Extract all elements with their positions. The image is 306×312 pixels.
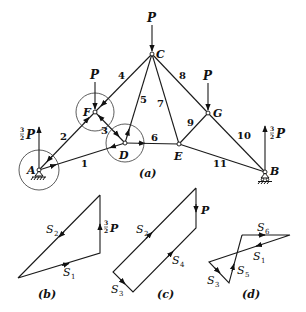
svg-text:3: 3 <box>270 125 274 132</box>
svg-text:2: 2 <box>104 227 108 234</box>
caption-c: (c) <box>157 288 174 301</box>
caption-a: (a) <box>139 167 157 180</box>
label-S1-b: S 1 <box>63 266 75 281</box>
svg-text:S: S <box>237 264 245 277</box>
label-S2-c: S 2 <box>136 223 148 238</box>
truss-figure: P P P 3 2 P 3 2 P A B C D E F G 1 2 3 4 … <box>0 0 306 312</box>
arrow-icon <box>101 101 106 106</box>
joint-label-B: B <box>269 165 279 178</box>
label-S3-d: S 3 <box>207 274 219 289</box>
svg-text:S: S <box>111 283 119 296</box>
joint-label-D: D <box>118 149 129 162</box>
force-polygon-b: S 2 S 1 3 2 P (b) <box>18 195 119 301</box>
arrow-icon <box>215 268 220 273</box>
member-label-3: 3 <box>101 125 108 136</box>
force-polygon-d: S 6 S 1 S 5 S 3 (d) <box>207 221 290 301</box>
load-label-G: P <box>202 69 213 83</box>
member-label-11: 11 <box>213 158 227 169</box>
svg-text:P: P <box>109 222 119 235</box>
force-polygon-c: P S 2 S 4 S 3 (c) <box>111 188 210 301</box>
svg-text:S: S <box>253 250 261 263</box>
label-S4-c: S 4 <box>172 254 185 269</box>
label-S5-d: S 5 <box>237 264 249 279</box>
joint-label-G: G <box>213 107 222 120</box>
member-label-1: 1 <box>81 158 88 169</box>
svg-text:S: S <box>46 223 54 236</box>
reaction-label-A: 3 2 P <box>20 126 36 142</box>
joint-label-E: E <box>173 150 183 163</box>
label-S3-c: S 3 <box>111 283 123 298</box>
member-label-6: 6 <box>151 132 158 143</box>
svg-text:3: 3 <box>215 281 219 289</box>
member-label-2: 2 <box>60 131 67 142</box>
svg-text:3: 3 <box>119 290 123 298</box>
label-S6-d: S 6 <box>257 221 270 236</box>
reaction-label-B: 3 2 P <box>270 125 286 141</box>
caption-d: (d) <box>242 288 260 301</box>
joint-label-F: F <box>82 106 92 119</box>
member-label-4: 4 <box>118 70 125 81</box>
svg-text:3: 3 <box>104 219 108 226</box>
label-S1-d: S 1 <box>253 250 265 265</box>
member-label-9: 9 <box>187 117 194 128</box>
svg-text:1: 1 <box>71 273 75 281</box>
load-label-C: P <box>146 11 157 25</box>
joint-nodes <box>37 52 267 174</box>
arrow-icon <box>50 165 56 167</box>
arrow-icon <box>127 130 129 137</box>
svg-text:4: 4 <box>180 261 185 269</box>
svg-text:5: 5 <box>245 271 249 279</box>
joint-label-C: C <box>156 48 165 61</box>
arrow-icon <box>121 280 125 284</box>
label-S2-b: S 2 <box>46 223 58 238</box>
arrow-icon <box>59 232 64 237</box>
member-label-10: 10 <box>237 130 251 141</box>
arrow-icon <box>256 244 262 246</box>
svg-text:2: 2 <box>54 230 58 238</box>
label-P-c: P <box>200 204 210 217</box>
member-label-7: 7 <box>157 98 164 109</box>
member-label-5: 5 <box>140 94 147 105</box>
arrow-icon <box>47 156 52 162</box>
svg-text:S: S <box>136 223 144 236</box>
arrow-icon <box>99 116 104 121</box>
caption-b: (b) <box>38 288 56 301</box>
svg-text:S: S <box>257 221 265 234</box>
svg-text:3: 3 <box>20 126 24 133</box>
load-label-F: P <box>89 68 100 82</box>
joint-label-A: A <box>26 164 36 177</box>
svg-text:2: 2 <box>20 134 24 141</box>
svg-text:2: 2 <box>270 133 274 140</box>
svg-text:P: P <box>25 128 36 142</box>
svg-text:S: S <box>63 266 71 279</box>
svg-text:P: P <box>275 127 286 141</box>
svg-text:S: S <box>172 254 180 267</box>
svg-text:6: 6 <box>265 228 270 236</box>
svg-text:1: 1 <box>261 257 265 265</box>
arrow-icon <box>114 131 119 137</box>
svg-text:S: S <box>207 274 215 287</box>
member-6 <box>125 143 179 144</box>
truss-diagram: P P P 3 2 P 3 2 P A B C D E F G 1 2 3 4 … <box>19 11 286 190</box>
svg-text:2: 2 <box>144 230 148 238</box>
label-3-2P-b: 3 2 P <box>104 219 119 235</box>
member-label-8: 8 <box>179 70 186 81</box>
